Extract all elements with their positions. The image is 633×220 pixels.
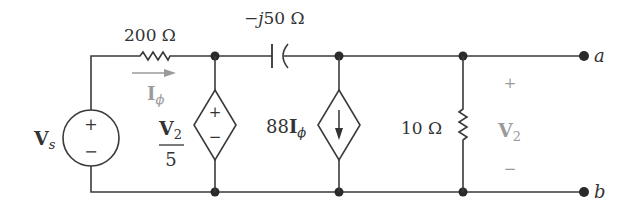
dependent-current-label: 88Iϕ — [266, 116, 306, 140]
voltage-source-vs: + − — [63, 110, 119, 166]
capacitor-label: −j50 Ω — [244, 8, 305, 28]
resistor-200-ohm — [137, 52, 172, 60]
svg-text:a: a — [594, 45, 605, 66]
dependent-current-source — [318, 90, 360, 160]
arrow-down-icon — [335, 128, 343, 140]
svg-text:b: b — [594, 181, 606, 202]
svg-text:−: − — [84, 142, 97, 161]
terminal-a: a — [579, 45, 605, 66]
svg-text:+: + — [84, 115, 97, 134]
svg-text:−: − — [504, 160, 517, 178]
node-1 — [211, 52, 220, 197]
dependent-voltage-source: + − — [194, 90, 236, 160]
resistor-200-label: 200 Ω — [124, 25, 176, 45]
svg-text:+: + — [504, 74, 517, 92]
terminal-b: b — [579, 181, 606, 202]
dependent-voltage-label: V2 5 — [158, 117, 184, 170]
current-label: Iϕ — [147, 83, 164, 107]
current-arrow-icon — [132, 69, 176, 77]
svg-text:+: + — [209, 103, 222, 121]
source-label: Vs — [33, 127, 56, 152]
circuit-diagram: 200 Ω Iϕ + − Vs + − V2 5 −j50 Ω — [0, 0, 633, 220]
node-3 — [459, 52, 468, 197]
svg-text:V2: V2 — [158, 117, 182, 142]
svg-text:5: 5 — [165, 149, 176, 170]
output-voltage: + V2 − — [497, 74, 521, 178]
svg-text:V2: V2 — [497, 119, 521, 144]
svg-text:−: − — [209, 128, 222, 146]
resistor-10-label: 10 Ω — [401, 118, 442, 138]
